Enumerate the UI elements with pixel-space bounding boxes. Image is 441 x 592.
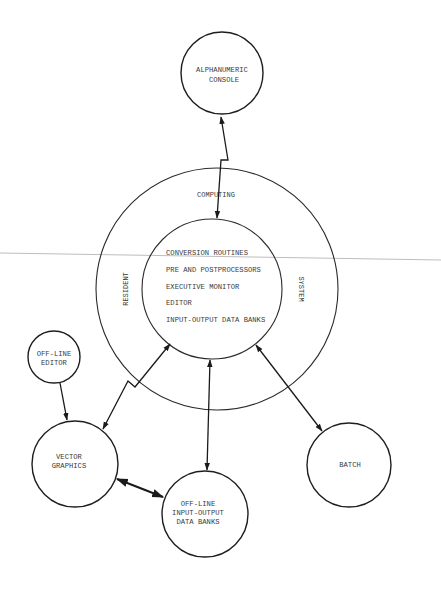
node-offline-io-data-banks: OFF-LINE INPUT-OUTPUT DATA BANKS bbox=[162, 471, 248, 557]
core-module-list: CONVERSION ROUTINES PRE AND POSTPROCESSO… bbox=[166, 249, 265, 324]
node-batch: BATCH bbox=[307, 423, 391, 507]
alphanumeric-console-label-1: ALPHANUMERIC bbox=[196, 66, 248, 74]
ring-label-resident: RESIDENT bbox=[122, 272, 130, 306]
alphanumeric-console-label-2: CONSOLE bbox=[209, 76, 239, 84]
offline-io-label-3: DATA BANKS bbox=[176, 518, 219, 526]
ring-label-computing: COMPUTING bbox=[197, 191, 235, 199]
module-pre-postprocessors: PRE AND POSTPROCESSORS bbox=[166, 266, 261, 274]
offline-io-label-2: INPUT-OUTPUT bbox=[172, 509, 224, 517]
arrow-core-to-offline-io bbox=[207, 360, 210, 470]
offline-io-label-1: OFF-LINE bbox=[181, 500, 216, 508]
arrow-core-to-vector-graphics bbox=[103, 344, 170, 429]
module-conversion-routines: CONVERSION ROUTINES bbox=[166, 249, 248, 257]
offline-editor-label-1: OFF-LINE bbox=[37, 350, 72, 358]
batch-label: BATCH bbox=[339, 461, 361, 469]
arrow-offline-editor-to-vector-graphics bbox=[60, 383, 67, 420]
module-io-data-banks: INPUT-OUTPUT DATA BANKS bbox=[166, 316, 265, 324]
node-vector-graphics: VECTOR GRAPHICS bbox=[32, 421, 118, 507]
node-offline-editor: OFF-LINE EDITOR bbox=[28, 331, 80, 383]
node-alphanumeric-console: ALPHANUMERIC CONSOLE bbox=[181, 32, 263, 114]
resident-computing-system: COMPUTING RESIDENT SYSTEM CONVERSION ROU… bbox=[96, 168, 338, 410]
arrow-vector-graphics-to-offline-io bbox=[117, 479, 163, 497]
arrow-core-to-batch bbox=[256, 345, 322, 431]
vector-graphics-label-1: VECTOR bbox=[56, 453, 83, 461]
system-diagram: ALPHANUMERIC CONSOLE COMPUTING RESIDENT … bbox=[0, 0, 441, 592]
offline-editor-label-2: EDITOR bbox=[41, 359, 68, 367]
ring-label-system: SYSTEM bbox=[297, 276, 305, 301]
module-editor: EDITOR bbox=[166, 299, 193, 307]
module-executive-monitor: EXECUTIVE MONITOR bbox=[166, 283, 240, 291]
vector-graphics-label-2: GRAPHICS bbox=[52, 462, 87, 470]
